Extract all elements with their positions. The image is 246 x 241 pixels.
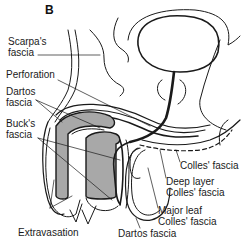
bucks-fascia-shaded-2: [86, 132, 120, 199]
anatomy-figure: B Scarpa's fascia Perforation Dartos fas…: [0, 0, 246, 241]
label-deep-layer-colles: Deep layer Colles' fascia: [166, 176, 225, 198]
panel-letter: B: [45, 3, 54, 17]
label-bucks-fascia: Buck's fascia: [6, 118, 35, 140]
label-extravasation: Extravasation: [18, 227, 79, 238]
label-perforation: Perforation: [6, 69, 55, 80]
label-scarpas-fascia: Scarpa's fascia: [8, 36, 47, 58]
label-dartos-fascia-top: Dartos fascia: [6, 86, 35, 108]
bladder-outline: [138, 16, 219, 72]
bladder-wall-outer: [128, 10, 240, 45]
label-colles-fascia: Colles' fascia: [180, 160, 239, 171]
label-dartos-fascia-bottom: Dartos fascia: [118, 228, 176, 239]
label-major-leaf-colles: Major leaf Colles' fascia: [158, 205, 217, 227]
